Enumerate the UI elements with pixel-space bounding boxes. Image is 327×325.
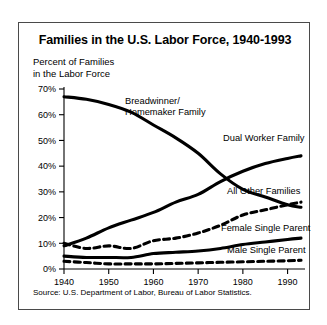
series-label-dual-worker-family: Dual Worker Family	[223, 133, 304, 144]
y-tick-label: 0%	[43, 264, 56, 274]
series-label-breadwinner-homemaker-family: Breadwinner/ Homemaker Family	[125, 96, 206, 118]
chart-figure: Families in the U.S. Labor Force, 1940-1…	[18, 22, 310, 310]
series-label-breadwinner-line1: Breadwinner/	[125, 96, 206, 107]
series-label-breadwinner-line2: Homemaker Family	[125, 107, 206, 118]
y-tick-label: 10%	[38, 239, 56, 249]
y-tick-label: 30%	[38, 187, 56, 197]
x-tick-label: 1960	[143, 277, 163, 287]
x-tick-group: 194019501960197019801990	[54, 269, 298, 287]
plot-area: 0%10%20%30%40%50%60%70% 1940195019601970…	[19, 23, 311, 311]
x-tick-label: 1940	[54, 277, 74, 287]
y-tick-label: 50%	[38, 136, 56, 146]
series-label-male-single-parent: Male Single Parent	[227, 245, 306, 256]
series-group	[64, 97, 301, 264]
y-tick-label: 20%	[38, 213, 56, 223]
series-label-female-single-parent: Female Single Parent	[221, 223, 310, 234]
source-note: Source: U.S. Department of Labor, Bureau…	[33, 288, 252, 297]
y-tick-label: 60%	[38, 110, 56, 120]
x-tick-label: 1980	[233, 277, 253, 287]
y-tick-group: 0%10%20%30%40%50%60%70%	[38, 84, 64, 274]
x-tick-label: 1950	[99, 277, 119, 287]
x-tick-label: 1970	[188, 277, 208, 287]
series-label-all-other-families: All Other Families	[227, 186, 300, 197]
y-tick-label: 40%	[38, 161, 56, 171]
x-tick-label: 1990	[278, 277, 298, 287]
y-tick-label: 70%	[38, 84, 56, 94]
series-path-male-single-parent	[64, 260, 301, 264]
